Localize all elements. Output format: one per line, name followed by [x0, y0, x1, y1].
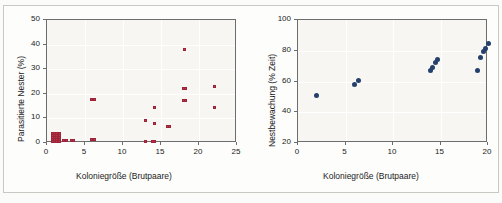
data-point	[93, 98, 96, 101]
y-tick-label: 60	[273, 77, 291, 85]
data-point	[53, 140, 56, 143]
data-point	[144, 140, 147, 143]
gridline-vertical	[441, 20, 442, 141]
data-point	[53, 134, 56, 137]
x-tick-label: 15	[430, 148, 450, 156]
data-point	[428, 68, 433, 73]
data-point	[55, 140, 58, 143]
data-point	[53, 136, 56, 139]
data-point	[153, 106, 156, 109]
data-point	[184, 99, 187, 102]
gridline-horizontal	[298, 51, 486, 52]
y-tick-label: 40	[22, 40, 40, 48]
data-point	[58, 140, 61, 143]
y-tick-mark	[43, 117, 46, 118]
data-point	[90, 138, 93, 141]
data-point	[475, 68, 480, 73]
x-tick-mark	[198, 142, 199, 145]
x-tick-mark	[440, 142, 441, 145]
data-point	[58, 132, 61, 135]
x-axis-title-left: Koloniegröße (Brutpaare)	[76, 171, 172, 181]
data-point	[51, 140, 54, 143]
data-point	[435, 57, 440, 62]
gridline-horizontal	[47, 69, 235, 70]
y-tick-label: 100	[273, 15, 291, 23]
data-point	[62, 139, 65, 142]
plot-area-right	[297, 19, 487, 142]
y-tick-label: 20	[273, 138, 291, 146]
gridline-horizontal	[298, 112, 486, 113]
x-tick-label: 0	[287, 148, 307, 156]
plot-area-left	[46, 19, 236, 142]
x-tick-mark	[297, 142, 298, 145]
y-tick-mark	[294, 81, 297, 82]
gridline-vertical	[123, 20, 124, 141]
y-tick-mark	[294, 19, 297, 20]
x-tick-mark	[84, 142, 85, 145]
data-point	[430, 65, 435, 70]
gridline-vertical	[199, 20, 200, 141]
x-tick-mark	[122, 142, 123, 145]
y-tick-mark	[294, 50, 297, 51]
gridline-vertical	[393, 20, 394, 141]
data-point	[433, 60, 438, 65]
data-point	[55, 134, 58, 137]
data-point	[478, 55, 483, 60]
data-point	[53, 138, 56, 141]
data-point	[213, 85, 216, 88]
x-tick-mark	[46, 142, 47, 145]
x-tick-mark	[392, 142, 393, 145]
x-tick-mark	[236, 142, 237, 145]
data-point	[65, 139, 68, 142]
data-point	[51, 138, 54, 141]
y-tick-mark	[43, 93, 46, 94]
x-tick-label: 15	[150, 148, 170, 156]
y-tick-label: 20	[22, 89, 40, 97]
data-point	[314, 93, 319, 98]
gridline-horizontal	[47, 94, 235, 95]
x-tick-label: 20	[477, 148, 497, 156]
data-point	[51, 136, 54, 139]
chart-panel-left: Parasitierte Nester (%) Koloniegröße (Br…	[0, 5, 250, 198]
x-tick-label: 5	[335, 148, 355, 156]
data-point	[151, 140, 154, 143]
data-point	[153, 140, 156, 143]
data-point	[51, 132, 54, 135]
data-point	[182, 87, 185, 90]
gridline-horizontal	[298, 82, 486, 83]
y-tick-label: 10	[22, 113, 40, 121]
data-point	[486, 41, 491, 46]
data-point	[144, 119, 147, 122]
y-tick-mark	[43, 68, 46, 69]
x-tick-label: 10	[112, 148, 132, 156]
data-point	[51, 134, 54, 137]
y-tick-mark	[43, 19, 46, 20]
data-point	[93, 138, 96, 141]
y-tick-label: 40	[273, 107, 291, 115]
y-tick-mark	[43, 44, 46, 45]
x-axis-title-right: Koloniegröße (Brutpaare)	[323, 171, 419, 181]
gridline-horizontal	[47, 45, 235, 46]
x-tick-label: 0	[36, 148, 56, 156]
data-point	[58, 138, 61, 141]
data-point	[168, 125, 171, 128]
figure-container: Parasitierte Nester (%) Koloniegröße (Br…	[0, 0, 502, 203]
data-point	[352, 82, 357, 87]
data-point	[90, 98, 93, 101]
gridline-vertical	[85, 20, 86, 141]
data-point	[58, 136, 61, 139]
x-tick-label: 10	[382, 148, 402, 156]
x-tick-mark	[160, 142, 161, 145]
y-tick-label: 80	[273, 46, 291, 54]
y-axis-title-right: Nestbewachung (% Zeit)	[267, 54, 277, 147]
data-point	[70, 139, 73, 142]
data-point	[55, 136, 58, 139]
gridline-vertical	[346, 20, 347, 141]
y-tick-mark	[294, 111, 297, 112]
data-point	[166, 125, 169, 128]
y-tick-label: 50	[22, 15, 40, 23]
data-point	[58, 134, 61, 137]
gridline-vertical	[161, 20, 162, 141]
data-point	[55, 138, 58, 141]
x-tick-mark	[345, 142, 346, 145]
